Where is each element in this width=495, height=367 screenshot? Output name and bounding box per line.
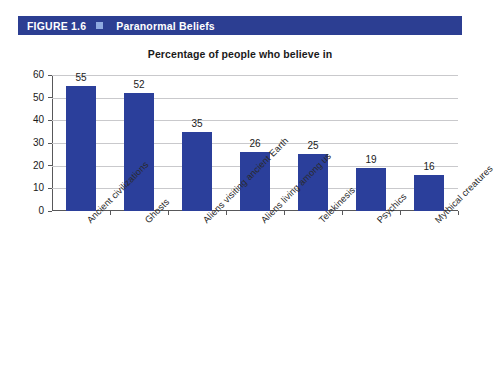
x-axis-label: Psychics: [375, 191, 409, 225]
bar-value-label: 55: [61, 73, 101, 83]
x-axis-label: Ghosts: [143, 197, 171, 225]
bar-value-label: 26: [235, 139, 275, 149]
bar-value-label: 35: [177, 119, 217, 129]
bar-value-label: 19: [351, 155, 391, 165]
x-axis-label: Ancient civilizations: [85, 160, 151, 226]
bar-value-label: 52: [119, 80, 159, 90]
bar-value-label: 16: [409, 162, 449, 172]
x-axis-label: Mythical creatures: [433, 163, 495, 225]
x-axis-label: Telekinesis: [317, 185, 357, 225]
bar-value-label: 25: [293, 141, 333, 151]
